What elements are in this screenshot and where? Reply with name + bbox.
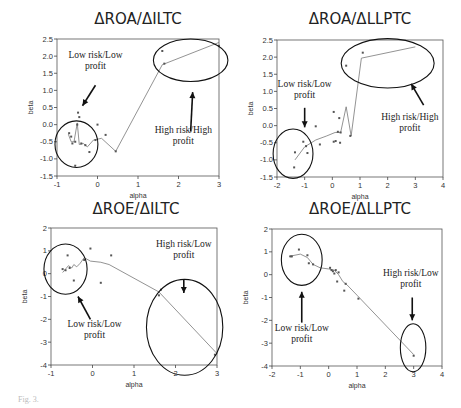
data-point: [293, 166, 295, 168]
figure-caption: Fig. 3.: [18, 395, 39, 404]
y-axis-label: beta: [21, 290, 28, 304]
data-point: [413, 355, 415, 357]
y-tick-label: -4: [40, 361, 47, 370]
y-tick-label: -2: [261, 316, 268, 325]
data-point: [312, 263, 314, 265]
chart-roa_llptc: -1.5-1.0-0.50.00.51.01.52.02.5-2-101234a…: [247, 36, 445, 202]
data-point: [305, 145, 307, 147]
y-tick-label: 2.5: [43, 35, 53, 44]
data-point: [80, 142, 82, 144]
x-tick-label: 4: [441, 181, 445, 190]
data-point: [335, 140, 337, 142]
data-point: [302, 141, 304, 143]
x-axis-label: alpha: [129, 192, 146, 200]
data-point: [68, 132, 70, 134]
data-point: [306, 152, 308, 154]
plot-frame: [277, 40, 443, 177]
data-point: [78, 116, 80, 118]
data-point: [97, 124, 99, 126]
data-point: [73, 280, 75, 282]
x-axis-label: alpha: [125, 381, 142, 389]
data-point: [74, 165, 76, 167]
data-point: [333, 273, 335, 275]
data-point: [332, 270, 334, 272]
data-point: [110, 254, 112, 256]
data-point: [319, 143, 321, 145]
data-point: [88, 151, 90, 153]
data-point: [336, 281, 338, 283]
highlight-ellipse: [341, 39, 434, 88]
data-point: [333, 141, 335, 143]
y-tick-label: 1.0: [263, 87, 273, 96]
annotation-label: High risk/Lowprofit: [156, 239, 212, 260]
arrow-head-icon: [181, 287, 187, 293]
data-point: [357, 298, 359, 300]
data-point: [161, 50, 163, 52]
arrow-head-icon: [189, 92, 195, 98]
data-point: [333, 111, 335, 113]
data-point: [84, 144, 86, 146]
data-point: [158, 294, 160, 296]
y-tick-label: -1.0: [260, 155, 273, 164]
data-point: [294, 151, 296, 153]
x-tick-label: 0: [95, 180, 99, 189]
data-point: [349, 135, 351, 137]
y-tick-label: -4: [261, 362, 268, 371]
x-tick-label: 0: [330, 181, 334, 190]
x-tick-label: 2: [383, 370, 387, 379]
x-tick-label: -1: [48, 369, 55, 378]
y-axis-label: beta: [247, 102, 254, 116]
x-tick-label: 4: [440, 370, 444, 379]
data-point: [338, 117, 340, 119]
y-tick-label: -3: [40, 338, 47, 347]
x-tick-label: 3: [217, 180, 221, 189]
y-tick-label: -0.5: [40, 137, 53, 146]
data-point: [362, 52, 364, 54]
data-point: [71, 142, 73, 144]
chart-title: ΔROE/ΔLLPTC: [300, 200, 420, 218]
chart-roe_llptc: -4-3-2-1012-2-101234alphabetaHigh risk/L…: [242, 225, 444, 391]
x-tick-label: 3: [413, 181, 417, 190]
data-point: [105, 134, 107, 136]
data-point: [291, 255, 293, 257]
arrow-head-icon: [299, 292, 305, 298]
y-axis-label: beta: [242, 291, 249, 305]
annotation-label: Low risk/Lowprofit: [68, 50, 122, 71]
data-point: [62, 268, 64, 270]
y-tick-label: -1.5: [260, 173, 273, 182]
y-tick-label: 0.5: [43, 103, 53, 112]
x-tick-label: 1: [355, 370, 359, 379]
data-point: [76, 124, 78, 126]
data-point: [329, 267, 331, 269]
data-point: [345, 283, 347, 285]
y-tick-label: 1: [43, 246, 47, 255]
y-tick-label: 2: [264, 225, 268, 234]
data-point: [74, 141, 76, 143]
data-point: [335, 269, 337, 271]
data-point: [163, 63, 165, 65]
data-point: [67, 254, 69, 256]
highlight-ellipse: [146, 279, 222, 375]
y-tick-label: 1: [264, 247, 268, 256]
y-axis-label: beta: [27, 101, 34, 115]
x-tick-label: -2: [274, 181, 281, 190]
data-point: [94, 139, 96, 141]
y-tick-label: 2: [43, 224, 47, 233]
y-tick-label: -1: [261, 293, 268, 302]
x-tick-label: 1: [358, 181, 362, 190]
y-tick-label: -1.5: [40, 172, 53, 181]
x-tick-label: -1: [54, 180, 61, 189]
data-point: [338, 271, 340, 273]
y-tick-label: -2: [40, 315, 47, 324]
data-point: [89, 248, 91, 250]
y-tick-label: 0.0: [43, 120, 53, 129]
x-tick-label: 2: [176, 180, 180, 189]
annotation-label: High risk/Highprofit: [381, 112, 439, 133]
x-axis-label: alpha: [348, 382, 365, 390]
annotation-label: Low risk/Lowprofit: [275, 323, 329, 344]
x-tick-label: -1: [297, 370, 304, 379]
data-point: [306, 254, 308, 256]
x-tick-label: 0: [90, 369, 94, 378]
chart-title: ΔROA/ΔLLPTC: [300, 10, 420, 28]
data-point: [343, 290, 345, 292]
